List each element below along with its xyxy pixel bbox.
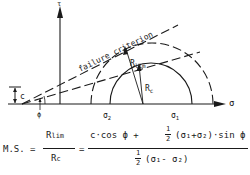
fraction1-numerator: Rlim xyxy=(46,131,64,140)
mohr-circle-diagram: τ σ c failure criterion ϕ Rlim Rc σ2 σ1 xyxy=(0,0,250,130)
fraction2-denominator-b: (σ₁- σ₂) xyxy=(145,155,188,164)
fraction2-numerator-b: (σ₁+σ₂)·sin ϕ xyxy=(175,131,245,140)
cohesion-arrow-up-icon xyxy=(13,88,17,92)
phi-angle-arc xyxy=(44,96,45,104)
r-lim-label: Rlim xyxy=(130,59,146,69)
sigma1-label: σ1 xyxy=(171,111,179,121)
fraction2-numerator-half-num: 1 xyxy=(166,126,170,133)
sigma2-label: σ2 xyxy=(103,111,111,121)
sigma-axis-arrow-icon xyxy=(214,101,226,107)
fraction2-numerator-half-den: 2 xyxy=(166,136,170,143)
formula-equals: = xyxy=(79,145,84,154)
fraction2-bar xyxy=(88,148,248,149)
fraction2-denominator-half-den: 2 xyxy=(136,160,140,167)
tau-axis-label: τ xyxy=(57,0,61,8)
fraction1-denominator: Rc xyxy=(51,154,61,163)
stress-circle xyxy=(110,63,192,104)
cohesion-label: c xyxy=(20,92,25,101)
cohesion-arrow-down-icon xyxy=(13,99,17,103)
failure-criterion-line xyxy=(22,25,178,104)
phi-label: ϕ xyxy=(37,111,41,119)
fraction1-bar xyxy=(43,148,75,149)
formula-lhs: M.S. = xyxy=(3,145,36,154)
fraction2-denominator-half-num: 1 xyxy=(136,150,140,157)
sigma-axis-label: σ xyxy=(229,98,234,108)
margin-of-safety-formula: M.S. = Rlim Rc = c·cos ϕ + 1 2 (σ₁+σ₂)·s… xyxy=(0,128,250,175)
fraction2-numerator-a: c·cos ϕ + xyxy=(90,131,139,140)
r-c-label: Rc xyxy=(145,84,154,94)
